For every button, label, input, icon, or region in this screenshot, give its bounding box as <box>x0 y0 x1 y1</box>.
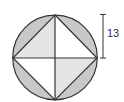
dimension-marker: 13 <box>100 15 119 59</box>
geometry-figure: 13 <box>0 0 124 102</box>
dimension-label: 13 <box>107 27 119 39</box>
